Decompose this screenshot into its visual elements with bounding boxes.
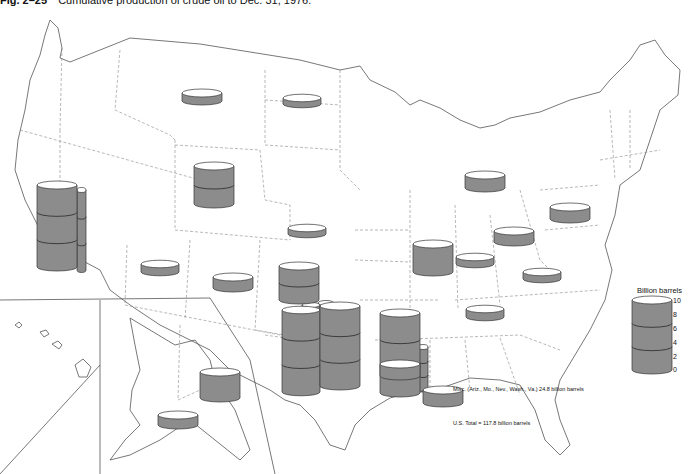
legend-tick-8: 8 [673,311,677,318]
barrel-new-mexico [200,368,240,402]
barrel-louisiana-1 [380,309,420,397]
barrel-california-0 [77,188,86,273]
barrel-layer [37,89,672,429]
legend-tick-6: 6 [673,325,677,332]
coastline [0,20,680,474]
barrel-colorado [213,273,253,292]
us-map [0,0,690,474]
legend-tick-2: 2 [673,353,677,360]
legend-tick-10: 10 [673,297,681,304]
barrel-north-dakota [283,94,321,108]
legend-tick-0: 0 [673,366,677,373]
barrel-kansas [279,262,319,304]
barrel-legend [632,296,672,374]
barrel-ohio [494,227,534,246]
barrel-nebraska [288,224,326,238]
barrel-arkansas [380,360,420,380]
barrel-illinois [413,240,453,276]
legend-tick-4: 4 [673,339,677,346]
legend-title: Billion barrels [637,286,682,295]
barrel-wyoming [194,162,234,208]
barrel-montana [182,89,222,105]
barrel-pennsylvania [550,203,590,223]
barrel-michigan [465,171,505,192]
barrel-oklahoma [320,302,360,390]
barrel-california-1 [37,181,77,271]
total-note: U.S. Total = 117.8 billion barrels [453,420,530,426]
barrel-west-virginia [523,268,561,283]
barrel-indiana [456,253,494,268]
barrel-utah [141,260,179,276]
barrel-kentucky [466,305,504,321]
barrel-alaska [158,411,198,429]
barrel-texas-4 [282,306,320,396]
misc-note: Misc. (Ariz., Mo., Nev., Wash., Va.) 24.… [453,386,584,392]
